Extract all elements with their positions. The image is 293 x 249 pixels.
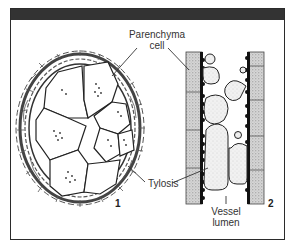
panel-2-longitudinal-section bbox=[186, 52, 264, 204]
vessel-label-line2: lumen bbox=[206, 217, 246, 228]
vessel-lumen-label: Vessel lumen bbox=[206, 206, 246, 228]
vessel-label-line1: Vessel bbox=[206, 206, 246, 217]
parenchyma-label-line1: Parenchyma bbox=[126, 29, 188, 40]
parenchyma-label-line2: cell bbox=[126, 40, 188, 51]
panel-1-cross-section bbox=[16, 50, 145, 207]
parenchyma-cell-label: Parenchyma cell bbox=[126, 29, 188, 51]
panel-number-1: 1 bbox=[115, 198, 121, 209]
tylosis-label: Tylosis bbox=[148, 178, 179, 189]
panel-number-2: 2 bbox=[268, 198, 274, 209]
